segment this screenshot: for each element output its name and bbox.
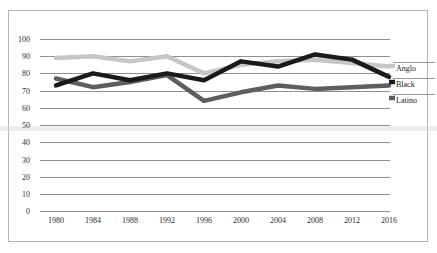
chart-figure: 100 90 80 70 60 50 40 30 20 10 0 1980 19… [0,0,437,253]
legend-item-black: Black [396,80,415,89]
series-line-latino [56,75,389,101]
series-layer [0,0,437,253]
legend-item-latino: Latino [396,96,417,105]
legend-divider-top [393,62,435,63]
plot-area: 100 90 80 70 60 50 40 30 20 10 0 1980 19… [0,0,437,253]
legend-item-anglo: Anglo [396,64,416,73]
legend-divider-middle [393,78,435,79]
legend-divider-bottom [393,94,435,95]
